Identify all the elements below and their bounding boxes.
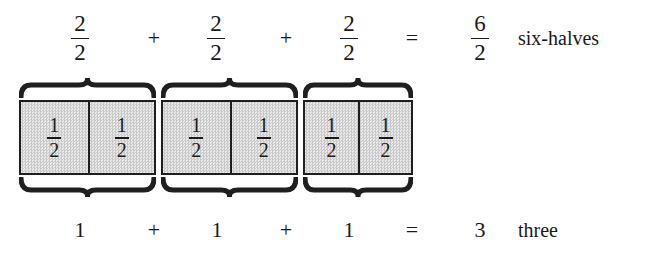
numerator: 1 (47, 115, 61, 135)
group-1-cell-2: 1 2 (88, 102, 155, 173)
denominator: 2 (71, 41, 89, 64)
numerator: 2 (71, 12, 89, 35)
numerator: 1 (115, 115, 129, 135)
rectangle-group-3: 1 2 1 2 (303, 100, 413, 175)
denominator: 2 (471, 41, 489, 64)
top-term-1: 2 2 (60, 12, 100, 64)
denominator: 2 (257, 140, 271, 160)
bottom-row-label: three (518, 215, 638, 245)
fraction-six-halves: 6 2 (471, 12, 489, 65)
rectangle-group-1: 1 2 1 2 (19, 100, 156, 175)
fraction-one-half: 1 2 (115, 115, 129, 159)
bottom-result: 3 (464, 215, 496, 245)
numerator: 2 (207, 12, 225, 35)
denominator: 2 (115, 140, 129, 160)
fraction-one-half: 1 2 (189, 115, 203, 159)
top-term-2: 2 2 (196, 12, 236, 64)
denominator: 2 (189, 140, 203, 160)
bottom-brace-group-2 (161, 177, 298, 197)
bottom-plus-1: + (138, 215, 170, 245)
denominator: 2 (340, 41, 358, 64)
numerator: 1 (325, 115, 339, 135)
numerator: 2 (340, 12, 358, 35)
bottom-term-2: 1 (201, 215, 233, 245)
top-brace-group-3 (303, 78, 413, 98)
fraction-two-halves-2: 2 2 (207, 12, 225, 65)
denominator: 2 (379, 140, 393, 160)
bottom-brace-group-3 (303, 177, 413, 197)
top-brace-group-1 (19, 78, 156, 98)
bottom-brace-group-1 (19, 177, 156, 197)
group-2-cell-2: 1 2 (230, 102, 297, 173)
top-term-3: 2 2 (329, 12, 369, 64)
bottom-term-3: 1 (333, 215, 365, 245)
fraction-one-half: 1 2 (379, 115, 393, 159)
numerator: 1 (189, 115, 203, 135)
denominator: 2 (325, 140, 339, 160)
group-1-cell-1: 1 2 (21, 102, 88, 173)
denominator: 2 (47, 140, 61, 160)
fraction-one-half: 1 2 (47, 115, 61, 159)
fraction-two-halves-1: 2 2 (71, 12, 89, 65)
top-plus-2: + (270, 24, 302, 52)
rectangle-group-2: 1 2 1 2 (161, 100, 298, 175)
top-brace-group-2 (161, 78, 298, 98)
numerator: 1 (257, 115, 271, 135)
fraction-one-half: 1 2 (257, 115, 271, 159)
bottom-plus-2: + (270, 215, 302, 245)
fraction-bar (71, 38, 89, 40)
bottom-term-1: 1 (64, 215, 96, 245)
numerator: 6 (471, 12, 489, 35)
top-plus-1: + (138, 24, 170, 52)
top-equals: = (396, 24, 428, 52)
numerator: 1 (379, 115, 393, 135)
top-result: 6 2 (460, 12, 500, 64)
fraction-diagram: 2 2 + 2 2 + 2 2 = 6 2 six-halves (0, 0, 652, 259)
group-2-cell-1: 1 2 (163, 102, 230, 173)
fraction-one-half: 1 2 (325, 115, 339, 159)
fraction-bar (207, 38, 225, 40)
group-3-cell-1: 1 2 (305, 102, 358, 173)
bottom-equals: = (396, 215, 428, 245)
denominator: 2 (207, 41, 225, 64)
top-row-label: six-halves (518, 24, 638, 52)
fraction-bar (340, 38, 358, 40)
group-3-cell-2: 1 2 (358, 102, 411, 173)
fraction-bar (471, 38, 489, 40)
fraction-two-halves-3: 2 2 (340, 12, 358, 65)
